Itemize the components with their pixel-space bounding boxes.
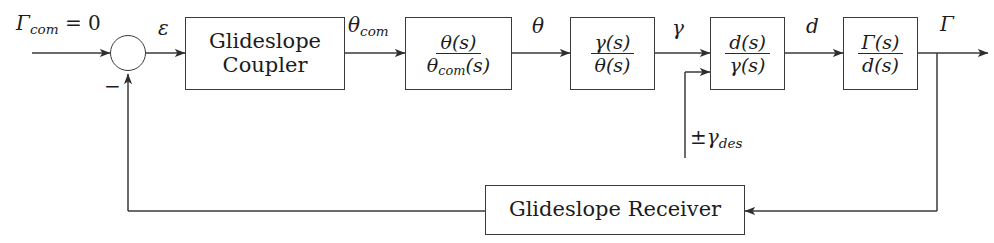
signal-label-gamma: γ (672, 18, 684, 38)
signal-label-theta-com: θcom (348, 15, 389, 35)
signal-label-command: Γcom = 0 (16, 13, 101, 33)
signal-label-output-gamma: Γ (940, 14, 954, 34)
coupler-label-line1: Glideslope (209, 30, 321, 54)
signal-label-error: ε (158, 18, 169, 38)
theta-tf-den-tail: (s) (466, 54, 491, 76)
theta-tf-den-main: θ (427, 54, 438, 76)
command-symbol: Γ (16, 11, 30, 35)
gslope-tf-denominator: d(s) (858, 54, 903, 75)
theta-tf-numerator: θ(s) (436, 33, 480, 54)
theta-com-subscript: com (360, 23, 389, 39)
gslope-tf-numerator: Γ(s) (858, 33, 904, 54)
block-d-transfer-function[interactable]: d(s) γ(s) (710, 17, 785, 90)
theta-tf-denominator: θcom(s) (423, 54, 494, 75)
theta-com-symbol: θ (348, 13, 360, 37)
gamma-des-subscript: des (719, 135, 743, 151)
block-glideslope-transfer-function[interactable]: Γ(s) d(s) (843, 17, 918, 90)
coupler-label-line2: Coupler (223, 54, 308, 78)
gamma-des-prefix: ± (690, 125, 707, 149)
block-theta-transfer-function[interactable]: θ(s) θcom(s) (405, 17, 512, 90)
signal-label-gamma-des: ±γdes (690, 127, 742, 147)
d-tf-numerator: d(s) (725, 33, 770, 54)
command-equals: = 0 (59, 11, 101, 35)
summing-junction (110, 35, 146, 71)
block-gamma-transfer-function[interactable]: γ(s) θ(s) (570, 17, 655, 90)
gamma-tf-denominator: θ(s) (590, 54, 634, 75)
block-glideslope-receiver[interactable]: Glideslope Receiver (485, 185, 745, 235)
d-tf-denominator: γ(s) (726, 54, 770, 75)
command-subscript: com (30, 21, 59, 37)
block-glideslope-coupler[interactable]: Glideslope Coupler (185, 17, 345, 90)
receiver-label: Glideslope Receiver (509, 198, 721, 222)
summing-junction-negative-sign: − (104, 76, 121, 96)
signal-label-d: d (806, 16, 819, 36)
gamma-des-symbol: γ (707, 125, 719, 149)
theta-tf-den-sub: com (438, 63, 465, 78)
block-diagram: − Γcom = 0 ε Glideslope Coupler θcom θ(s… (0, 0, 994, 243)
gamma-tf-numerator: γ(s) (591, 33, 635, 54)
signal-label-theta: θ (532, 16, 544, 36)
